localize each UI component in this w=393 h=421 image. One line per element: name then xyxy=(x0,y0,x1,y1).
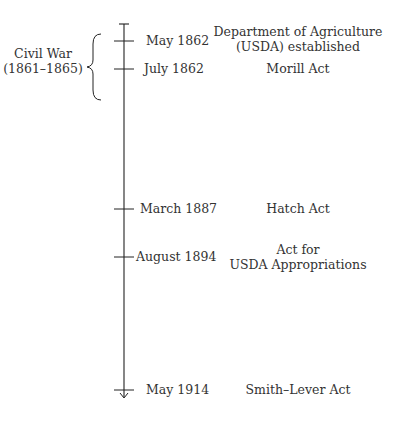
era-label-civil-war: Civil War (1861–1865) xyxy=(0,46,88,76)
event-text: Smith–Lever Act xyxy=(198,382,393,397)
date-label: July 1862 xyxy=(144,61,204,76)
event-label: Department of Agriculture (USDA) establi… xyxy=(198,24,393,54)
era-name: Civil War xyxy=(0,46,88,61)
event-label: Morill Act xyxy=(198,61,393,76)
event-text: Hatch Act xyxy=(198,201,393,216)
event-text: (USDA) established xyxy=(198,39,393,54)
event-text: Morill Act xyxy=(198,61,393,76)
event-label: Act for USDA Appropriations xyxy=(198,242,393,272)
event-text: Act for xyxy=(198,242,393,257)
timeline-diagram: Civil War (1861–1865) May 1862 July 1862… xyxy=(0,0,393,421)
civil-war-brace xyxy=(87,34,101,100)
event-text: USDA Appropriations xyxy=(198,257,393,272)
era-years: (1861–1865) xyxy=(0,61,88,76)
event-text: Department of Agriculture xyxy=(198,24,393,39)
event-label: Smith–Lever Act xyxy=(198,382,393,397)
event-label: Hatch Act xyxy=(198,201,393,216)
